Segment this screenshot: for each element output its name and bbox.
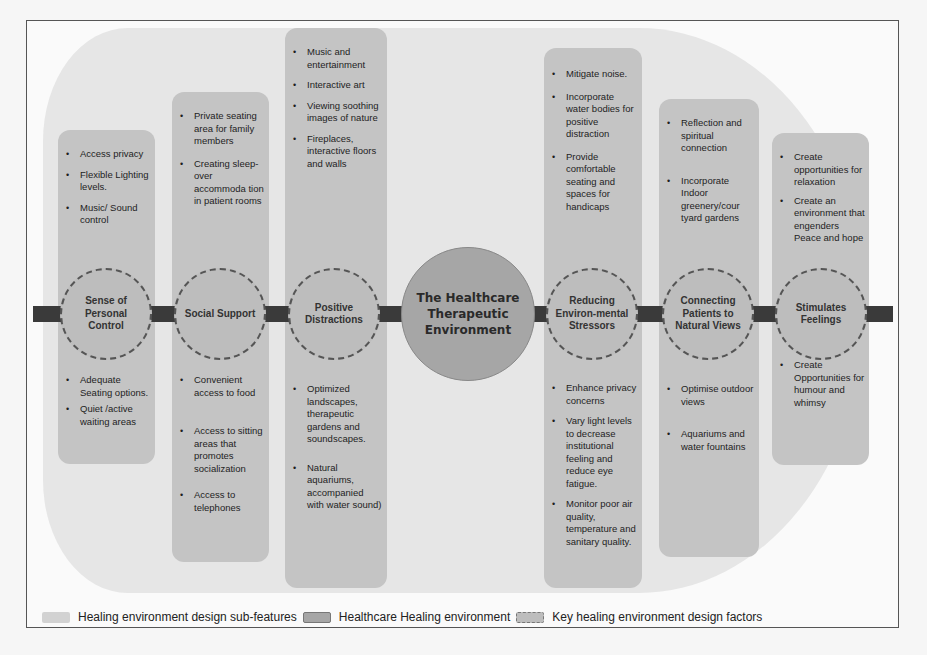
factor-label: Stimulates Feelings <box>783 302 859 327</box>
list-item: Fireplaces, interactive floors and walls <box>291 133 383 171</box>
list-item: Create an environment that engenders Pea… <box>778 195 865 245</box>
list-item: Quiet /active waiting areas <box>64 403 151 428</box>
list-item: Aquariums and water fountains <box>665 428 755 453</box>
legend: Healing environment design sub-features … <box>42 609 768 625</box>
list-item: Music/ Sound control <box>64 202 151 227</box>
legend-label: Healthcare Healing environment <box>339 610 510 624</box>
factor-label: Reducing Environ-mental Stressors <box>554 295 630 333</box>
list-item: Access to telephones <box>178 489 265 514</box>
factor-reducing-stressors: Reducing Environ-mental Stressors <box>546 268 638 360</box>
factor-label: Positive Distractions <box>296 302 372 327</box>
list-item: Monitor poor air quality, temperature an… <box>550 498 638 548</box>
factor-label: Social Support <box>185 308 256 321</box>
legend-swatch-icon <box>303 612 331 623</box>
list-item: Mitigate noise. <box>550 68 638 81</box>
list-item: Access privacy <box>64 148 151 161</box>
factor-personal-control: Sense of Personal Control <box>60 268 152 360</box>
list-item: Provide comfortable seating and spaces f… <box>550 151 638 214</box>
central-concept: The Healthcare Therapeutic Environment <box>401 247 535 381</box>
list-item: Vary light levels to decrease institutio… <box>550 415 638 490</box>
list-item: Natural aquariums, accompanied with wate… <box>291 462 383 512</box>
list-item: Incorporate Indoor greenery/cour tyard g… <box>665 175 755 225</box>
central-concept-label: The Healthcare Therapeutic Environment <box>402 290 534 338</box>
list-item: Private seating area for family members <box>178 110 265 148</box>
list-item: Convenient access to food <box>178 374 265 399</box>
list-item: Create Opportunities for humour and whim… <box>778 359 865 409</box>
list-item: Optimise outdoor views <box>665 383 755 408</box>
legend-swatch-icon <box>42 612 70 623</box>
legend-item-key-factors: Key healing environment design factors <box>516 610 762 624</box>
legend-swatch-icon <box>516 612 544 623</box>
factor-stimulates-feelings: Stimulates Feelings <box>775 268 867 360</box>
legend-label: Healing environment design sub-features <box>78 610 297 624</box>
legend-label: Key healing environment design factors <box>552 610 762 624</box>
legend-item-healing-environment: Healthcare Healing environment <box>303 610 510 624</box>
list-item: Reflection and spiritual connection <box>665 117 755 155</box>
list-item: Creating sleep-over accommoda tion in pa… <box>178 158 265 208</box>
list-item: Flexible Lighting levels. <box>64 169 151 194</box>
list-item: Create opportunities for relaxation <box>778 151 865 189</box>
factor-positive-distractions: Positive Distractions <box>288 268 380 360</box>
list-item: Enhance privacy concerns <box>550 382 638 407</box>
list-item: Music and entertainment <box>291 46 383 71</box>
list-item: Incorporate water bodies for positive di… <box>550 91 638 141</box>
legend-item-sub-features: Healing environment design sub-features <box>42 610 297 624</box>
list-item: Adequate Seating options. <box>64 374 151 399</box>
factor-label: Sense of Personal Control <box>68 295 144 333</box>
list-item: Access to sitting areas that promotes so… <box>178 425 265 475</box>
list-item: Interactive art <box>291 79 383 92</box>
list-item: Optimized landscapes, therapeutic garden… <box>291 383 383 446</box>
factor-label: Connecting Patients to Natural Views <box>670 295 746 333</box>
list-item: Viewing soothing images of nature <box>291 100 383 125</box>
factor-social-support: Social Support <box>174 268 266 360</box>
factor-natural-views: Connecting Patients to Natural Views <box>662 268 754 360</box>
